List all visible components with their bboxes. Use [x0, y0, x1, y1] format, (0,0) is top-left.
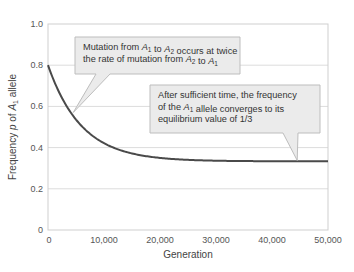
y-axis-title: Frequency p of A1 allele	[7, 73, 19, 180]
callout-text-line: equilibrium value of 1/3	[158, 114, 252, 124]
x-tick-label: 0	[46, 235, 51, 245]
y-tick-label: 0.4	[30, 143, 43, 153]
y-tick-label: 1.0	[30, 19, 43, 29]
y-tick-label: 0	[38, 225, 43, 235]
x-tick-label: 30,000	[202, 235, 230, 245]
x-tick-label: 20,000	[146, 235, 174, 245]
x-axis-ticks: 010,00020,00030,00040,00050,000	[46, 235, 341, 245]
x-tick-label: 40,000	[258, 235, 286, 245]
y-tick-label: 0.8	[30, 60, 43, 70]
x-axis-title: Generation	[163, 249, 212, 260]
x-tick-label: 10,000	[90, 235, 118, 245]
allele-frequency-chart: 00.20.40.60.81.0 010,00020,00030,00040,0…	[0, 0, 354, 272]
y-tick-label: 0.2	[30, 184, 43, 194]
x-tick-label: 50,000	[314, 235, 342, 245]
callout-equilibrium: After sufficient time, the frequencyof t…	[150, 85, 320, 160]
y-tick-label: 0.6	[30, 101, 43, 111]
callout-text-line: After sufficient time, the frequency	[158, 90, 297, 100]
y-axis-ticks: 00.20.40.60.81.0	[30, 19, 43, 235]
